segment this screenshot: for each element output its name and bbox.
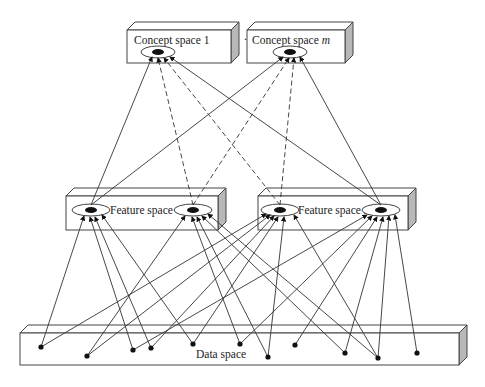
- concept-m-node: [284, 49, 296, 55]
- feature-space-1-label: Feature space 1: [110, 204, 182, 217]
- concept-space-1-box: Concept space 1: [127, 22, 239, 63]
- feature-1-node-b: [187, 207, 199, 213]
- feature-to-concept-links: [91, 57, 381, 205]
- concept-1-node: [152, 49, 164, 55]
- data-point: [38, 344, 43, 349]
- data-point: [148, 345, 153, 350]
- feature-n-node-b: [375, 207, 387, 213]
- data-space-box: Data space: [20, 325, 467, 365]
- data-point: [130, 347, 135, 352]
- data-point: [342, 350, 347, 355]
- data-point: [237, 341, 242, 346]
- feature-space-1-box: Feature space 1: [66, 188, 226, 230]
- feature-n-node-a: [274, 207, 286, 213]
- data-point: [190, 341, 195, 346]
- concept-space-m-box: Concept space m: [247, 22, 353, 63]
- data-point: [265, 354, 270, 359]
- data-point: [292, 342, 297, 347]
- concept-space-m-label: Concept space m: [252, 34, 330, 47]
- feature-1-node-a: [85, 207, 97, 213]
- diagram-canvas: Concept space 1 ...... Concept space m F…: [0, 0, 485, 387]
- data-point: [84, 353, 89, 358]
- data-point: [375, 355, 380, 360]
- data-space-label: Data space: [196, 348, 246, 361]
- feature-space-n-box: Feature space n: [258, 188, 416, 230]
- data-point: [414, 350, 419, 355]
- feature-space-n-label: Feature space n: [298, 204, 370, 217]
- concept-space-1-label: Concept space 1: [134, 34, 210, 47]
